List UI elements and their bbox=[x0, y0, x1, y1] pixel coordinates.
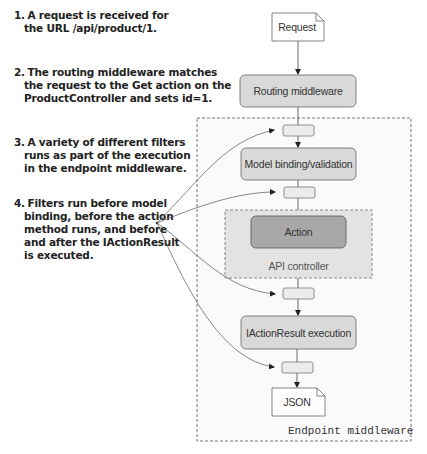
iactionresult-label: IActionResult execution bbox=[241, 327, 356, 339]
api-controller-label: API controller bbox=[225, 260, 372, 272]
filter-box bbox=[283, 288, 314, 299]
filter-box bbox=[283, 125, 314, 136]
filter-box bbox=[284, 187, 315, 198]
action-label: Action bbox=[251, 226, 346, 238]
model-binding-label: Model binding/validation bbox=[241, 158, 356, 170]
json-label: JSON bbox=[272, 396, 322, 408]
filter-box bbox=[282, 362, 313, 373]
pipeline-diagram bbox=[0, 0, 427, 454]
routing-middleware-label: Routing middleware bbox=[240, 85, 356, 97]
request-label: Request bbox=[272, 21, 322, 33]
endpoint-middleware-label: Endpoint middleware bbox=[288, 425, 413, 437]
